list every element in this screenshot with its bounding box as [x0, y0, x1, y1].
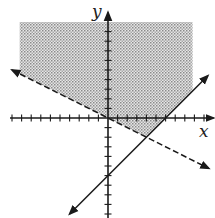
x-axis-label: x [199, 121, 209, 141]
y-axis-label: y [91, 1, 102, 21]
inequality-graph: x y [0, 0, 215, 218]
